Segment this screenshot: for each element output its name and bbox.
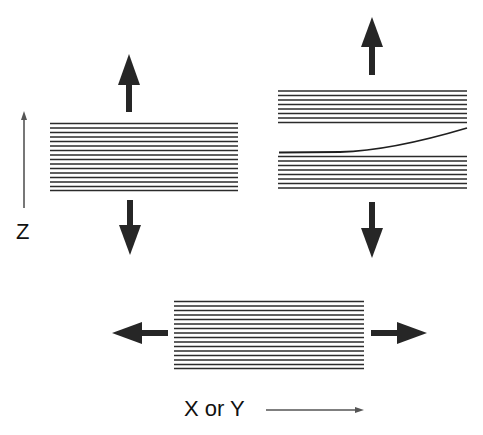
down-arrow-icon [119,200,141,255]
right-arrow-icon [371,322,427,344]
xy-axis-label: X or Y [184,398,245,420]
delamination-diagram [0,0,483,435]
panel-z-tension-delaminated [278,17,467,258]
z-axis-arrow-icon [21,111,27,208]
panel-xy-tension [112,302,427,369]
panel-z-tension-intact [50,54,238,255]
lower-layer-stack [278,157,467,189]
up-arrow-icon [118,54,140,112]
z-axis-label: Z [16,221,29,243]
layer-stack [174,302,364,369]
down-arrow-icon [361,202,383,258]
left-arrow-icon [112,322,168,344]
up-arrow-icon [361,17,383,75]
xy-axis-arrow-icon [266,407,364,413]
layer-stack [50,124,238,191]
upper-layer-stack [278,91,467,123]
peeling-layer [279,128,467,153]
